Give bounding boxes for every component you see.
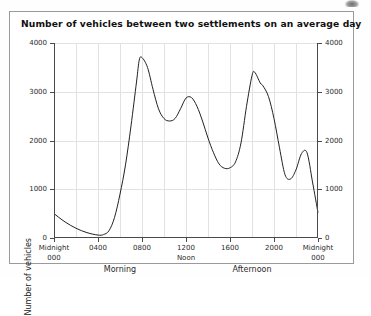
x-axis-band-label: Afternoon	[212, 265, 292, 274]
x-tick-label: Midnight000	[288, 244, 348, 263]
y-tick-right	[318, 43, 322, 44]
x-tick-label-main: Midnight	[303, 244, 333, 252]
x-tick	[230, 238, 231, 242]
y-tick-label-right: 2000	[325, 137, 343, 145]
x-tick	[186, 238, 187, 242]
figure-container: Number of vehicles between two settlemen…	[9, 11, 354, 264]
y-tick-right	[318, 141, 322, 142]
chart-title: Number of vehicles between two settlemen…	[21, 18, 361, 29]
y-tick-label: 4000	[14, 39, 47, 47]
y-tick	[50, 92, 54, 93]
y-tick	[50, 141, 54, 142]
x-tick-label-main: 1200	[177, 244, 195, 252]
x-tick-label-main: 0400	[89, 244, 107, 252]
y-tick-label-right: 3000	[325, 88, 343, 96]
y-tick-label: 3000	[14, 88, 47, 96]
x-tick-label-sub: 000	[24, 254, 84, 264]
x-tick-label-main: 2000	[265, 244, 283, 252]
y-tick	[50, 43, 54, 44]
x-tick	[274, 238, 275, 242]
x-tick-label-sub: 000	[288, 254, 348, 264]
x-tick-label-sub: Noon	[156, 254, 216, 264]
x-tick-label-main: 0800	[133, 244, 151, 252]
y-tick-label-right: 1000	[325, 185, 343, 193]
y-tick-right	[318, 189, 322, 190]
y-tick-label: 1000	[14, 185, 47, 193]
x-tick	[54, 238, 55, 242]
y-axis-title: Number of vehicles	[24, 238, 33, 316]
x-tick	[142, 238, 143, 242]
x-axis-band-label: Morning	[80, 265, 160, 274]
y-tick	[50, 189, 54, 190]
x-tick	[318, 238, 319, 242]
plot-area: 01000200030004000 01000200030004000 Midn…	[54, 43, 318, 238]
y-tick-label-right: 4000	[325, 39, 343, 47]
y-tick-label: 2000	[14, 137, 47, 145]
scan-artifact-smudge	[345, 0, 359, 7]
x-tick-label-main: Midnight	[39, 244, 69, 252]
y-tick-label-right: 0	[325, 234, 329, 242]
x-tick-label-main: 1600	[221, 244, 239, 252]
plot-frame	[54, 43, 318, 238]
y-tick-right	[318, 92, 322, 93]
x-tick	[98, 238, 99, 242]
